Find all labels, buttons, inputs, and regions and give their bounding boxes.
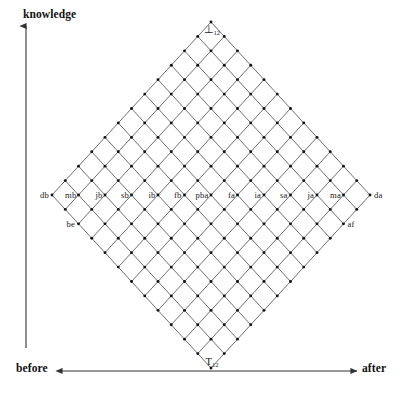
lattice-node xyxy=(130,251,133,254)
lattice-node xyxy=(143,266,146,269)
lattice-node xyxy=(183,309,186,312)
lattice-node xyxy=(263,107,266,110)
lattice-node xyxy=(183,222,186,225)
lattice-node xyxy=(223,64,226,67)
lattice-node xyxy=(249,64,252,67)
top-vertex-label-subscript: 12 xyxy=(212,361,219,368)
lattice-node xyxy=(249,93,252,96)
lattice-node xyxy=(77,222,80,225)
lattice-node xyxy=(196,294,199,297)
lattice-node xyxy=(223,150,226,153)
lattice-node xyxy=(223,323,226,326)
lattice-node xyxy=(183,165,186,168)
lattice-node xyxy=(223,208,226,211)
lattice-node xyxy=(263,194,266,197)
lattice-node xyxy=(183,338,186,341)
lattice-node xyxy=(289,136,292,139)
lattice-label-ma: ma xyxy=(330,190,341,200)
lattice-node xyxy=(276,237,279,240)
lattice-node xyxy=(276,179,279,182)
lattice-node xyxy=(210,136,213,139)
lattice-node xyxy=(143,150,146,153)
lattice-node xyxy=(236,78,239,81)
lattice-label-fa: fa xyxy=(228,190,235,200)
lattice-node xyxy=(236,309,239,312)
lattice-node xyxy=(170,64,173,67)
lattice-node xyxy=(302,121,305,124)
lattice-node xyxy=(170,150,173,153)
lattice-node xyxy=(302,150,305,153)
lattice-node xyxy=(196,35,199,38)
lattice-node xyxy=(249,237,252,240)
lattice-node xyxy=(157,309,160,312)
lattice-node xyxy=(236,165,239,168)
lattice-node xyxy=(157,222,160,225)
lattice-node xyxy=(210,49,213,52)
lattice-node xyxy=(196,93,199,96)
lattice-node xyxy=(170,266,173,269)
lattice-node xyxy=(143,294,146,297)
lattice-node xyxy=(104,222,107,225)
lattice-node xyxy=(263,78,266,81)
lattice-node xyxy=(183,280,186,283)
lattice-node xyxy=(236,194,239,197)
lattice-node xyxy=(104,136,107,139)
lattice-node xyxy=(223,93,226,96)
lattice-node xyxy=(249,150,252,153)
lattice-node xyxy=(249,323,252,326)
top-vertex-label: T12 xyxy=(206,356,219,367)
lattice-node xyxy=(316,194,319,197)
lattice-node xyxy=(316,165,319,168)
lattice-label-ia: ia xyxy=(255,190,262,200)
lattice-node xyxy=(183,78,186,81)
lattice-label-fb: fb xyxy=(174,190,182,200)
lattice-node xyxy=(104,251,107,254)
lattice-node xyxy=(170,93,173,96)
lattice-node xyxy=(236,222,239,225)
lattice-node xyxy=(117,121,120,124)
bottom-vertex-label-subscript: 12 xyxy=(214,29,221,36)
lattice-node xyxy=(196,266,199,269)
lattice-node xyxy=(316,251,319,254)
knowledge-axis-label: knowledge xyxy=(23,8,76,20)
lattice-label-da: da xyxy=(374,190,383,200)
lattice-diagram xyxy=(0,0,402,402)
lattice-node xyxy=(210,165,213,168)
lattice-node xyxy=(170,208,173,211)
lattice-node xyxy=(210,107,213,110)
lattice-node xyxy=(342,165,345,168)
diagram-canvas: knowledge before after dbmbjbsbibfbpbafa… xyxy=(0,0,402,402)
lattice-node xyxy=(104,194,107,197)
lattice-node xyxy=(223,352,226,355)
lattice-node xyxy=(249,294,252,297)
lattice-label-ib: ib xyxy=(149,190,156,200)
lattice-node xyxy=(316,222,319,225)
lattice-node xyxy=(143,121,146,124)
lattice-node xyxy=(210,222,213,225)
lattice-node xyxy=(117,179,120,182)
lattice-node xyxy=(342,194,345,197)
lattice-node xyxy=(170,121,173,124)
lattice-node xyxy=(223,237,226,240)
lattice-node xyxy=(355,208,358,211)
lattice-node xyxy=(316,136,319,139)
lattice-node xyxy=(170,237,173,240)
after-axis-label: after xyxy=(362,362,386,374)
lattice-node xyxy=(143,179,146,182)
lattice-node xyxy=(104,165,107,168)
lattice-node xyxy=(157,165,160,168)
lattice-node xyxy=(329,150,332,153)
lattice-label-ja: ja xyxy=(308,190,315,200)
lattice-node xyxy=(236,251,239,254)
lattice-node xyxy=(263,280,266,283)
lattice-node xyxy=(249,266,252,269)
lattice-node xyxy=(276,294,279,297)
lattice-node xyxy=(90,179,93,182)
lattice-node xyxy=(196,208,199,211)
lattice-node xyxy=(157,136,160,139)
lattice-node xyxy=(196,179,199,182)
lattice-label-db: db xyxy=(40,190,49,200)
lattice-node xyxy=(223,294,226,297)
lattice-node xyxy=(143,237,146,240)
lattice-node xyxy=(183,251,186,254)
